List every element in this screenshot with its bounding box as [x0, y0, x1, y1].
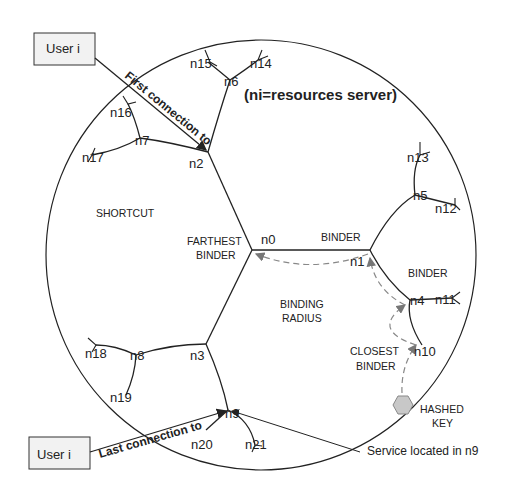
- node-n21[interactable]: n21: [245, 437, 267, 452]
- node-n14[interactable]: n14: [250, 56, 272, 71]
- farthest-binder-line2: BINDER: [196, 249, 236, 261]
- node-n18[interactable]: n18: [85, 346, 107, 361]
- node-n1[interactable]: n1: [350, 254, 364, 269]
- main-edges: [92, 60, 455, 445]
- hashed-key-marker[interactable]: [393, 396, 413, 414]
- edge-n1-n4: [370, 250, 410, 300]
- route-n4-to-n1: [370, 258, 405, 305]
- node-labels: n0 n1 n2 n3 n4 n5 n6 n7 n8 n9 n10 n11 n1…: [82, 56, 457, 452]
- node-n6[interactable]: n6: [224, 74, 238, 89]
- hashed-key-line2: KEY: [432, 417, 453, 429]
- node-n9[interactable]: n9: [225, 406, 239, 421]
- node-n11[interactable]: n11: [435, 292, 456, 307]
- binder-right-label: BINDER: [408, 267, 448, 279]
- user-label-top: User i: [46, 41, 80, 56]
- node-n17[interactable]: n17: [82, 150, 104, 165]
- dashed-route: [256, 254, 416, 403]
- node-n19[interactable]: n19: [110, 390, 132, 405]
- node-n4[interactable]: n4: [410, 293, 424, 308]
- binder-top-label: BINDER: [321, 231, 361, 243]
- edge-n3-n9: [206, 344, 228, 410]
- closest-binder-line1: CLOSEST: [350, 345, 400, 357]
- node-n8[interactable]: n8: [130, 348, 144, 363]
- diagram-title: (ni=resources server): [244, 86, 397, 103]
- binding-radius-line1: BINDING: [280, 298, 324, 310]
- diagram-canvas: (ni=resources server) User i User i Firs…: [0, 0, 517, 496]
- last-connection-label: Last connection to: [97, 418, 203, 461]
- edge-n2-n6: [208, 80, 230, 152]
- closest-binder-line2: BINDER: [356, 360, 396, 372]
- leaf-ticks: [88, 50, 460, 452]
- node-n7[interactable]: n7: [135, 133, 149, 148]
- node-n13[interactable]: n13: [407, 150, 429, 165]
- service-location-label: Service located in n9: [367, 444, 479, 458]
- hashed-key-line1: HASHED: [420, 403, 464, 415]
- node-n5[interactable]: n5: [413, 188, 427, 203]
- node-n16[interactable]: n16: [110, 105, 132, 120]
- shortcut-label: SHORTCUT: [96, 207, 155, 219]
- edge-n0-n3: [206, 250, 252, 344]
- node-n12[interactable]: n12: [435, 201, 457, 216]
- user-label-bottom: User i: [37, 447, 71, 462]
- first-connection-arrow: [95, 58, 206, 150]
- node-n20[interactable]: n20: [191, 437, 213, 452]
- node-n2[interactable]: n2: [189, 156, 203, 171]
- node-n15[interactable]: n15: [190, 56, 212, 71]
- node-n3[interactable]: n3: [190, 348, 204, 363]
- edge-n1-n5: [370, 195, 415, 250]
- node-n0[interactable]: n0: [261, 232, 275, 247]
- binding-radius-line2: RADIUS: [282, 312, 322, 324]
- farthest-binder-line1: FARTHEST: [187, 235, 242, 247]
- node-n10[interactable]: n10: [414, 344, 436, 359]
